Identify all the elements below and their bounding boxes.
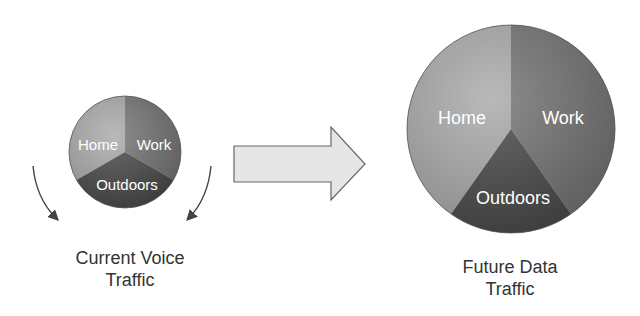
future-label-work: Work (542, 108, 585, 128)
current-caption-line2: Traffic (40, 269, 220, 291)
curved-arrow-right-icon (189, 166, 211, 218)
current-label-outdoors: Outdoors (96, 176, 158, 193)
future-data-pie: Home Work Outdoors (407, 25, 615, 233)
future-label-outdoors: Outdoors (476, 188, 550, 208)
transition-arrow-icon (234, 127, 365, 200)
future-caption-line2: Traffic (420, 278, 600, 300)
future-label-home: Home (438, 108, 486, 128)
future-data-caption: Future Data Traffic (420, 256, 600, 300)
current-label-home: Home (78, 136, 118, 153)
current-voice-pie: Home Work Outdoors (69, 96, 181, 208)
current-label-work: Work (137, 136, 172, 153)
current-voice-caption: Current Voice Traffic (40, 247, 220, 291)
curved-arrow-left-icon (33, 166, 56, 218)
current-caption-line1: Current Voice (40, 247, 220, 269)
future-caption-line1: Future Data (420, 256, 600, 278)
